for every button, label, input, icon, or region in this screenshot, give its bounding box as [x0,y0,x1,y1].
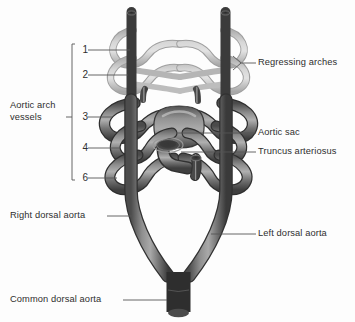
arch-number-1: 1 [76,44,88,55]
dorsal-branch-stub-left-hl [196,89,198,101]
right-dorsal-aorta-upper [127,11,135,100]
label-common-dorsal-aorta: Common dorsal aorta [10,294,101,306]
label-aortic-arch-vessels: Aortic arch vessels [10,100,56,123]
label-aortic-sac: Aortic sac [258,127,300,139]
arch-number-4: 4 [76,142,88,153]
arch-number-6: 6 [76,172,88,183]
label-left-dorsal-aorta: Left dorsal aorta [258,228,327,240]
vessel-illustration [0,0,355,322]
label-right-dorsal-aorta: Right dorsal aorta [10,210,85,222]
common-dorsal-aorta [168,272,189,317]
left-dorsal-aorta-upper [221,11,229,100]
arch-number-2: 2 [76,69,88,80]
dorsal-branch-stub-right-hl [143,89,145,100]
aortic-arch-diagram: Aortic arch vessels 1 2 3 4 6 Regressing… [0,0,355,322]
label-regressing-arches: Regressing arches [258,57,337,69]
aortic-arch-bracket [72,44,75,180]
pulmonary-stump [191,155,201,176]
label-truncus-arteriosus: Truncus arteriosus [258,146,336,158]
arch-number-3: 3 [76,111,88,122]
